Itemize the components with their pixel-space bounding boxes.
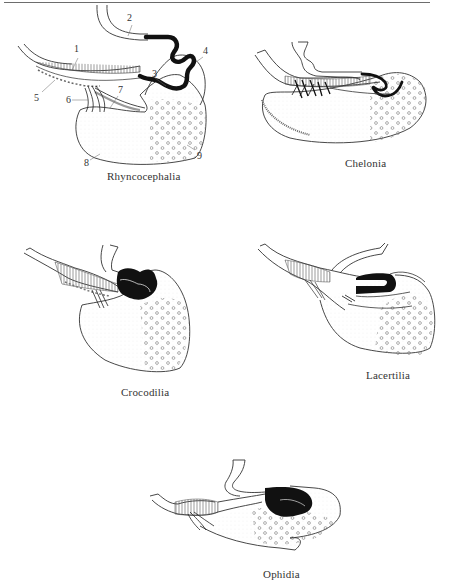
panel-chelonia: Chelonia — [230, 0, 457, 200]
crocodilia-diagram — [0, 200, 230, 400]
label-7: 7 — [118, 84, 123, 95]
label-6: 6 — [66, 94, 71, 105]
panel-ophidia: Ophidia — [130, 420, 360, 584]
panel-rhyncocephalia: 1 2 3 4 5 6 7 8 9 Rhyncocephalia — [0, 0, 230, 200]
ophidia-diagram — [130, 420, 360, 584]
caption-lacertilia: Lacertilia — [366, 369, 410, 381]
label-2: 2 — [127, 12, 132, 23]
lacertilia-diagram — [230, 200, 457, 400]
caption-rhyncocephalia: Rhyncocephalia — [107, 170, 181, 182]
label-4: 4 — [203, 45, 208, 56]
caption-ophidia: Ophidia — [263, 568, 300, 580]
panel-lacertilia: Lacertilia — [230, 200, 457, 400]
label-8: 8 — [84, 157, 89, 168]
label-5: 5 — [34, 92, 39, 103]
caption-chelonia: Chelonia — [345, 157, 386, 169]
label-1: 1 — [74, 43, 79, 54]
label-9: 9 — [197, 150, 202, 161]
chelonia-diagram — [230, 0, 457, 200]
panel-crocodilia: Crocodilia — [0, 200, 230, 400]
label-3: 3 — [152, 68, 157, 79]
caption-crocodilia: Crocodilia — [121, 386, 169, 398]
